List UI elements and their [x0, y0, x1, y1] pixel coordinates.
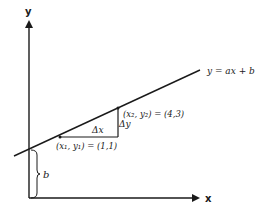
point-1-label: (x₁, y₁) = (1,1) [56, 141, 117, 151]
point-1: (x₁, y₁) = (1,1) [56, 136, 117, 152]
x-axis-label: x [205, 193, 212, 204]
delta-x-label: Δx [91, 125, 104, 135]
point-2: (x₂, y₂) = (4,3) [117, 107, 185, 120]
intercept-brace: b [31, 150, 49, 198]
slope-triangle: Δx Δy [60, 108, 131, 137]
point-2-label: (x₂, y₂) = (4,3) [123, 109, 184, 119]
delta-y-label: Δy [118, 119, 131, 129]
x-axis: x [29, 193, 212, 204]
intercept-label: b [43, 169, 49, 180]
slope-diagram: y x y = ax + b Δx Δy (x₁, y₁) = (1,1) (x… [0, 0, 256, 215]
line-equation-label: y = ax + b [206, 66, 255, 76]
y-axis-label: y [25, 6, 32, 17]
y-axis: y [25, 6, 32, 198]
